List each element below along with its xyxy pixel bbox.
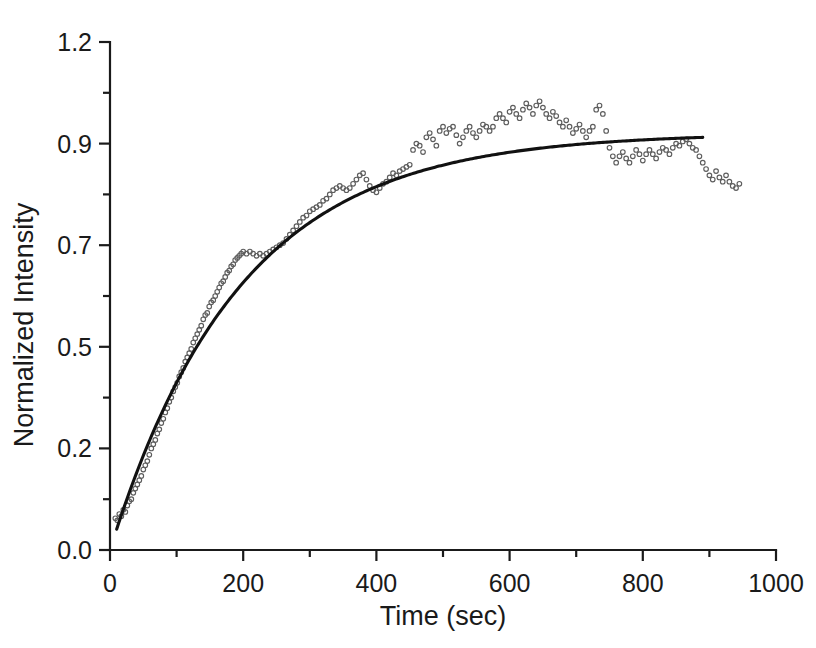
data-point <box>153 438 158 443</box>
data-point <box>700 160 705 165</box>
data-point <box>644 152 649 157</box>
data-point <box>474 135 479 140</box>
data-point <box>724 173 729 178</box>
data-point <box>157 427 162 432</box>
data-point <box>544 112 549 117</box>
data-point <box>354 177 359 182</box>
x-tick-label: 0 <box>103 569 117 597</box>
data-point <box>594 107 599 112</box>
data-point <box>641 158 646 163</box>
data-point <box>145 459 150 464</box>
data-point <box>704 167 709 172</box>
data-point <box>650 152 655 157</box>
data-point <box>298 220 303 225</box>
data-point <box>587 129 592 134</box>
data-point <box>497 112 502 117</box>
data-point <box>487 129 492 134</box>
data-point <box>581 129 586 134</box>
data-point <box>614 160 619 165</box>
data-point <box>524 101 529 106</box>
x-tick-label: 1000 <box>748 569 804 597</box>
data-point <box>554 114 559 119</box>
y-tick-label: 0.9 <box>57 130 92 158</box>
y-tick-label: 0.5 <box>57 333 92 361</box>
data-point <box>624 156 629 161</box>
data-point <box>584 135 589 140</box>
data-point <box>611 154 616 159</box>
data-point <box>591 124 596 129</box>
data-point-markers <box>113 99 742 523</box>
data-point <box>541 105 546 110</box>
data-point <box>147 452 152 457</box>
data-point <box>637 152 642 157</box>
data-point <box>634 148 639 153</box>
data-point <box>514 112 519 117</box>
data-point <box>707 173 712 178</box>
y-tick-label: 0.7 <box>57 231 92 259</box>
data-point <box>424 135 429 140</box>
data-point <box>577 122 582 127</box>
data-point <box>727 179 732 184</box>
data-point <box>710 177 715 182</box>
data-point <box>294 224 299 229</box>
data-point <box>199 323 204 328</box>
data-point <box>571 131 576 136</box>
data-point <box>737 182 742 187</box>
data-point <box>467 124 472 129</box>
data-point <box>471 131 476 136</box>
y-tick-label: 0.0 <box>57 536 92 564</box>
data-point <box>564 118 569 123</box>
data-point <box>507 110 512 115</box>
data-point <box>501 116 506 121</box>
data-point <box>547 116 552 121</box>
data-point <box>387 175 392 180</box>
x-tick-label: 800 <box>622 569 664 597</box>
data-point <box>534 103 539 108</box>
data-point <box>687 141 692 146</box>
data-point <box>464 129 469 134</box>
data-point <box>527 105 532 110</box>
data-point <box>557 120 562 125</box>
data-point <box>491 124 496 129</box>
data-point <box>434 143 439 148</box>
data-point <box>607 146 612 151</box>
x-axis-title: Time (sec) <box>380 601 507 631</box>
data-point <box>597 103 602 108</box>
data-point <box>720 179 725 184</box>
data-point <box>521 107 526 112</box>
exponential-fit-curve <box>117 137 703 529</box>
data-point <box>657 150 662 155</box>
data-point <box>647 148 652 153</box>
data-point <box>504 120 509 125</box>
data-point <box>364 177 369 182</box>
data-point <box>454 133 459 138</box>
y-axis-title: Normalized Intensity <box>9 202 39 447</box>
data-point <box>494 116 499 121</box>
data-point <box>561 124 566 129</box>
data-point <box>431 137 436 142</box>
data-point <box>161 416 166 421</box>
data-point <box>697 154 702 159</box>
data-point <box>601 112 606 117</box>
data-point <box>654 156 659 161</box>
x-tick-label: 200 <box>222 569 264 597</box>
data-point <box>461 135 466 140</box>
data-point <box>667 152 672 157</box>
data-point <box>617 154 622 159</box>
data-point <box>621 150 626 155</box>
y-axis-tick-labels: 0.00.20.50.70.91.2 <box>57 28 92 564</box>
x-axis-tick-labels: 02004006008001000 <box>103 569 804 597</box>
data-point <box>327 192 332 197</box>
data-point <box>511 105 516 110</box>
data-point <box>444 131 449 136</box>
data-point <box>351 182 356 187</box>
data-point <box>670 146 675 151</box>
data-point <box>531 112 536 117</box>
data-point <box>714 169 719 174</box>
data-point <box>437 129 442 134</box>
x-tick-label: 400 <box>356 569 398 597</box>
y-tick-label: 0.2 <box>57 434 92 462</box>
chart-figure: 0.00.20.50.70.91.2 02004006008001000 Nor… <box>0 0 816 648</box>
plot-canvas: 0.00.20.50.70.91.2 02004006008001000 Nor… <box>0 0 816 648</box>
data-point <box>551 110 556 115</box>
